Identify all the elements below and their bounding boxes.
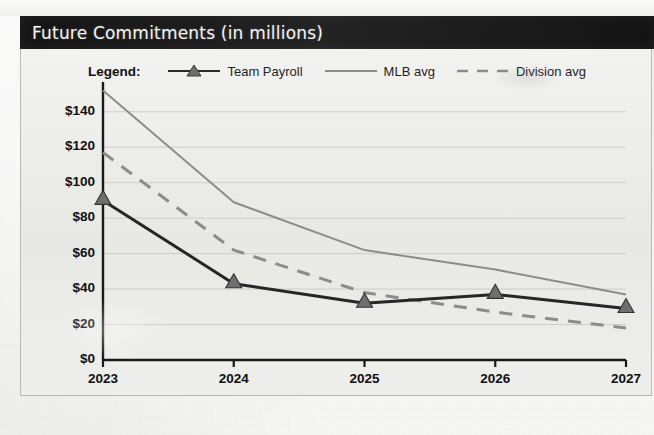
y-axis-tick-label: $120 (37, 138, 95, 153)
x-axis-tick-label: 2023 (68, 371, 138, 386)
data-series-group (95, 91, 634, 329)
y-axis-tick-label: $60 (37, 245, 95, 260)
y-axis-tick-label: $80 (37, 209, 95, 224)
y-axis-tick-label: $40 (37, 280, 95, 295)
x-axis-tick-label: 2026 (460, 371, 530, 386)
y-axis-tick-label: $140 (37, 103, 95, 118)
chart-title: Future Commitments (in millions) (20, 23, 323, 43)
chart-header-band: Future Commitments (in millions) (20, 16, 654, 49)
page-top-margin (0, 0, 654, 16)
x-axis-tick-label: 2027 (591, 371, 653, 386)
x-axis-tick-label: 2024 (199, 371, 269, 386)
y-axis-tick-label: $20 (37, 316, 95, 331)
y-axis-tick-label: $0 (37, 351, 95, 366)
y-axis-tick-label: $100 (37, 174, 95, 189)
chart-panel: Legend: Team Payroll MLB avg Division av… (20, 49, 652, 396)
plot-area: $0$20$40$60$80$100$120$140 2023202420252… (21, 49, 653, 396)
line-chart-canvas (21, 49, 653, 396)
x-axis-tick-label: 2025 (330, 371, 400, 386)
